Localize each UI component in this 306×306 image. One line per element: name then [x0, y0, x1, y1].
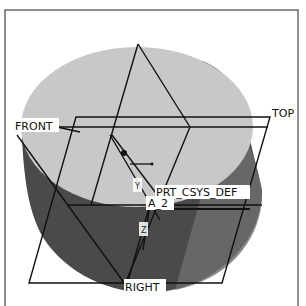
csys-axis-z-label: Z	[141, 226, 147, 235]
front-label[interactable]: FRONT	[15, 120, 53, 133]
point-icon	[121, 150, 127, 156]
csys-axis-y-label: Y	[134, 182, 140, 191]
model-canvas[interactable]: Y Z FRONT TOP RIGHT PRT_CSYS_DEF A_2	[0, 0, 306, 306]
right-label[interactable]: RIGHT	[125, 281, 160, 294]
cad-viewport[interactable]: Y Z FRONT TOP RIGHT PRT_CSYS_DEF A_2	[0, 0, 306, 306]
axis-label[interactable]: A_2	[148, 197, 168, 210]
cylinder-body[interactable]	[21, 47, 262, 293]
top-label[interactable]: TOP	[271, 107, 294, 120]
